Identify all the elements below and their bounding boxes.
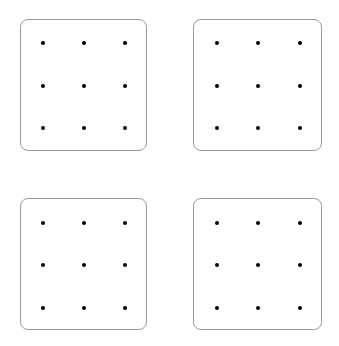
grid-dot-r3-c2 (82, 126, 86, 130)
dot-grid-panel-bottom-left (20, 198, 147, 330)
grid-dot-r1-c1 (41, 221, 45, 225)
grid-dot-r3-c3 (123, 306, 127, 310)
grid-dot-r3-c1 (41, 306, 45, 310)
grid-dot-r2-c3 (123, 84, 127, 88)
grid-dot-r3-c3 (298, 306, 302, 310)
grid-dot-r3-c2 (82, 306, 86, 310)
grid-dot-r2-c3 (123, 263, 127, 267)
dot-grid-panel-bottom-right (193, 198, 322, 330)
grid-dot-r2-c1 (41, 263, 45, 267)
grid-dot-r1-c2 (82, 41, 86, 45)
grid-dot-r3-c2 (256, 306, 260, 310)
grid-dot-r2-c2 (256, 263, 260, 267)
grid-dot-r1-c1 (41, 41, 45, 45)
grid-dot-r1-c1 (215, 221, 219, 225)
grid-dot-r1-c3 (298, 221, 302, 225)
grid-dot-r2-c2 (82, 263, 86, 267)
grid-dot-r2-c1 (215, 263, 219, 267)
grid-dot-r1-c3 (298, 41, 302, 45)
grid-dot-r2-c3 (298, 263, 302, 267)
grid-dot-r1-c2 (256, 41, 260, 45)
grid-dot-r2-c3 (298, 84, 302, 88)
dot-grid-panel-top-left (20, 19, 147, 151)
grid-dot-r1-c3 (123, 221, 127, 225)
grid-dot-r3-c1 (41, 126, 45, 130)
grid-dot-r2-c2 (256, 84, 260, 88)
dot-grid-panel-top-right (193, 19, 322, 151)
grid-dot-r1-c2 (256, 221, 260, 225)
grid-dot-r1-c1 (215, 41, 219, 45)
grid-dot-r2-c1 (41, 84, 45, 88)
grid-dot-r3-c1 (215, 306, 219, 310)
grid-dot-r2-c2 (82, 84, 86, 88)
grid-dot-r1-c3 (123, 41, 127, 45)
grid-dot-r3-c3 (123, 126, 127, 130)
grid-dot-r3-c3 (298, 126, 302, 130)
grid-dot-r3-c1 (215, 126, 219, 130)
grid-dot-r3-c2 (256, 126, 260, 130)
grid-dot-r2-c1 (215, 84, 219, 88)
grid-dot-r1-c2 (82, 221, 86, 225)
